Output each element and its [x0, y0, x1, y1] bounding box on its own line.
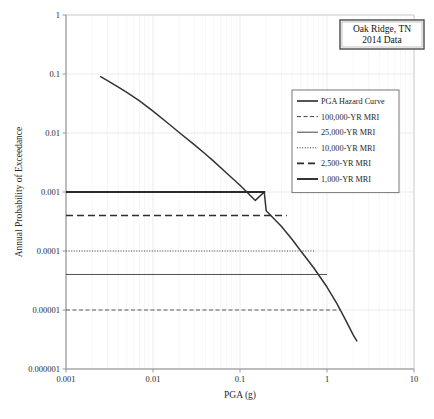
x-axis-title: PGA (g): [224, 390, 256, 401]
legend-label-3: 10,000-YR MRI: [321, 144, 375, 153]
legend-label-4: 2,500-YR MRI: [321, 159, 371, 168]
x-tick-label: 0.001: [56, 374, 75, 384]
legend: PGA Hazard Curve100,000-YR MRI25,000-YR …: [292, 90, 399, 193]
axes-layer: [63, 15, 415, 373]
x-tick-label: 0.01: [146, 374, 161, 384]
chart-canvas: 0.0010.010.111010.10.010.0010.00010.0000…: [0, 0, 434, 419]
x-tick-label: 10: [410, 374, 419, 384]
y-tick-label: 0.1: [49, 69, 60, 79]
tick-labels-layer: 0.0010.010.111010.10.010.0010.00010.0000…: [28, 10, 418, 384]
annotation-line-2: 2014 Data: [362, 35, 402, 45]
y-tick-label: 0.000001: [28, 364, 60, 374]
y-tick-label: 0.01: [45, 128, 60, 138]
y-tick-label: 0.0001: [37, 246, 60, 256]
x-tick-label: 0.1: [235, 374, 246, 384]
annotation-box: Oak Ridge, TN2014 Data: [340, 20, 424, 49]
legend-label-5: 1,000-YR MRI: [321, 175, 371, 184]
legend-label-1: 100,000-YR MRI: [321, 113, 379, 122]
y-tick-label: 1: [56, 10, 60, 20]
y-tick-label: 0.001: [41, 187, 60, 197]
x-tick-label: 1: [325, 374, 329, 384]
legend-label-2: 25,000-YR MRI: [321, 128, 375, 137]
y-tick-label: 0.00001: [32, 305, 60, 315]
y-axis-title: Annual Probability of Exceedance: [14, 127, 24, 258]
axis-titles-layer: PGA (g)Annual Probability of Exceedance: [14, 127, 256, 401]
pga-hazard-curve-chart: 0.0010.010.111010.10.010.0010.00010.0000…: [0, 0, 434, 419]
annotation-line-1: Oak Ridge, TN: [353, 24, 411, 34]
legend-label-0: PGA Hazard Curve: [321, 97, 385, 106]
